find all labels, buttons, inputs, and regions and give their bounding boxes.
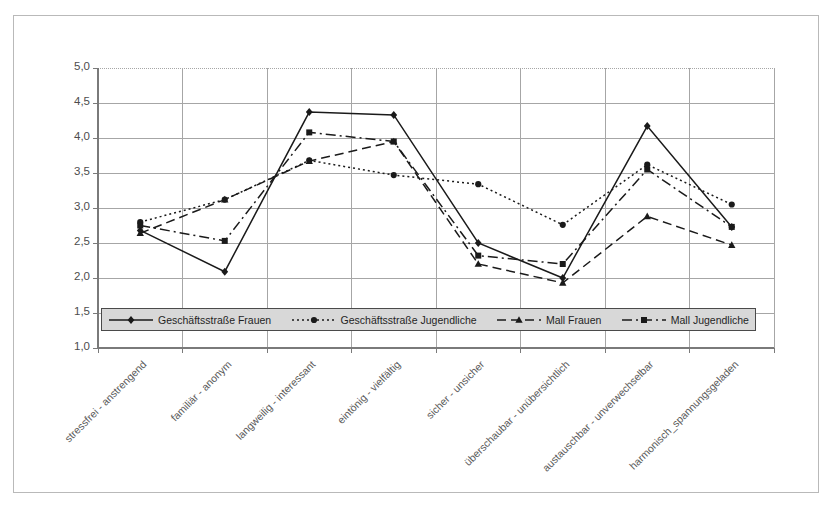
legend-label: Mall Frauen [546, 314, 601, 326]
y-axis-tick-label: 3,5 [40, 165, 90, 177]
chart-figure: 1,01,52,02,53,03,54,04,55,0 stressfrei -… [0, 0, 833, 514]
data-point-marker [222, 238, 228, 244]
data-point-marker [560, 261, 566, 267]
y-axis-tick-label: 2,0 [40, 270, 90, 282]
data-point-marker [475, 253, 481, 259]
legend-swatch-triangle-icon [496, 313, 542, 327]
y-axis-tick-label: 5,0 [40, 60, 90, 72]
legend-label: Geschäftsstraße Frauen [158, 314, 271, 326]
data-point-marker [475, 181, 481, 187]
legend-label: Geschäftsstraße Jugendliche [341, 314, 477, 326]
legend-item-1[interactable]: Geschäftsstraße Frauen [108, 313, 271, 327]
legend-swatch-diamond-icon [108, 313, 154, 327]
chart-legend: Geschäftsstraße FrauenGeschäftsstraße Ju… [101, 308, 756, 331]
data-point-marker [306, 108, 313, 116]
y-axis-tick-label: 1,0 [40, 340, 90, 352]
data-point-marker [560, 222, 566, 228]
y-axis-tick-label: 4,0 [40, 130, 90, 142]
legend-swatch-circle-icon [291, 313, 337, 327]
legend-swatch-square-icon [621, 313, 667, 327]
data-point-marker [221, 268, 228, 276]
legend-item-3[interactable]: Mall Frauen [496, 313, 601, 327]
data-point-marker [391, 139, 397, 145]
line-chart [0, 0, 833, 514]
data-point-marker [644, 167, 650, 173]
data-point-marker [391, 172, 397, 178]
data-point-marker [729, 201, 735, 207]
legend-label: Mall Jugendliche [671, 314, 749, 326]
data-point-marker [644, 213, 651, 220]
legend-item-4[interactable]: Mall Jugendliche [621, 313, 749, 327]
legend-item-2[interactable]: Geschäftsstraße Jugendliche [291, 313, 477, 327]
y-axis-tick-label: 1,5 [40, 305, 90, 317]
data-point-marker [306, 129, 312, 135]
y-axis-tick-label: 2,5 [40, 235, 90, 247]
y-axis-tick-label: 4,5 [40, 95, 90, 107]
data-point-marker [729, 224, 735, 230]
data-point-marker [475, 260, 482, 267]
data-point-marker [137, 223, 143, 229]
y-axis-tick-label: 3,0 [40, 200, 90, 212]
